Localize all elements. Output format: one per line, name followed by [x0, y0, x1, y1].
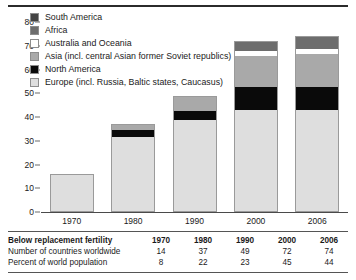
- legend-swatch-australia-oceania: [30, 39, 39, 48]
- below-replacement-fertility-table: Below replacement fertility1970198019902…: [8, 236, 348, 269]
- legend-item: South America: [30, 11, 290, 24]
- table-cell: 49: [224, 247, 266, 256]
- legend-swatch-africa: [30, 26, 39, 35]
- y-axis-tick-mark: [35, 188, 40, 189]
- chart-legend: South AmericaAfricaAustralia and Oceania…: [30, 11, 290, 89]
- legend-item: Australia and Oceania: [30, 37, 290, 50]
- y-axis-tick-label: 40: [25, 112, 34, 122]
- legend-item-label: Africa: [45, 24, 68, 37]
- y-axis: 80706050403020100: [0, 10, 34, 215]
- y-axis-tick-label: 10: [25, 183, 34, 193]
- table-row-label: Percent of world population: [8, 258, 140, 267]
- table-row: Percent of world population822234544: [8, 258, 348, 269]
- y-axis-tick-mark: [35, 164, 40, 165]
- table-row: Number of countries worldwide1437497274: [8, 247, 348, 258]
- x-axis-label-1970: 1970: [42, 216, 102, 226]
- legend-item-label: South America: [45, 11, 102, 24]
- table-cell: 14: [140, 247, 182, 256]
- bar-segment: [174, 97, 216, 111]
- bar-1980: [111, 124, 155, 212]
- table-cell: 44: [308, 258, 350, 267]
- bar-segment: [296, 54, 338, 87]
- legend-swatch-south-america: [30, 13, 39, 22]
- legend-item-label: Australia and Oceania: [45, 37, 132, 50]
- table-cell: 37: [182, 247, 224, 256]
- legend-item-label: Europe (incl. Russia, Baltic states, Cau…: [45, 76, 223, 89]
- table-top-divider: [8, 231, 348, 232]
- x-axis-baseline: [41, 212, 348, 213]
- bar-segment: [235, 87, 277, 110]
- legend-item: Europe (incl. Russia, Baltic states, Cau…: [30, 76, 290, 89]
- bar-2006: [295, 36, 339, 212]
- legend-item: Asia (incl. central Asian former Soviet …: [30, 50, 290, 63]
- y-axis-tick-mark: [35, 140, 40, 141]
- legend-swatch-asia: [30, 52, 39, 61]
- bar-segment: [296, 87, 338, 110]
- table-cell: 45: [266, 258, 308, 267]
- y-axis-tick-label: 20: [25, 160, 34, 170]
- bar-segment: [112, 137, 154, 211]
- x-axis-label-2006: 2006: [287, 216, 347, 226]
- table-cell: 72: [266, 247, 308, 256]
- y-axis-tick-mark: [35, 117, 40, 118]
- y-axis-tick-label: 0: [29, 207, 34, 217]
- bar-1990: [173, 96, 217, 212]
- y-axis-tick-mark: [35, 93, 40, 94]
- y-axis-tick-label: 50: [25, 88, 34, 98]
- bar-segment: [112, 130, 154, 137]
- x-axis-label-2000: 2000: [226, 216, 286, 226]
- top-divider: [8, 5, 348, 7]
- table-row-label: Number of countries worldwide: [8, 247, 140, 256]
- legend-item: Africa: [30, 24, 290, 37]
- table-column-header: 1980: [182, 236, 224, 245]
- table-column-header: 1990: [224, 236, 266, 245]
- bottom-divider: [8, 272, 348, 273]
- table-row-label: Below replacement fertility: [8, 236, 140, 245]
- x-axis-labels: 19701980199020002006: [41, 216, 348, 232]
- bar-segment: [296, 110, 338, 211]
- bar-segment: [296, 37, 338, 49]
- table-cell: 22: [182, 258, 224, 267]
- legend-item-label: Asia (incl. central Asian former Soviet …: [45, 50, 231, 63]
- bar-segment: [174, 120, 216, 211]
- y-axis-tick-mark: [35, 212, 40, 213]
- x-axis-label-1990: 1990: [165, 216, 225, 226]
- legend-swatch-europe: [30, 78, 39, 87]
- bar-segment: [174, 111, 216, 120]
- legend-item-label: North America: [45, 63, 101, 76]
- table-column-header: 1970: [140, 236, 182, 245]
- legend-item: North America: [30, 63, 290, 76]
- table-row: Below replacement fertility1970198019902…: [8, 236, 348, 247]
- bar-segment: [235, 110, 277, 211]
- bar-1970: [50, 174, 94, 212]
- y-axis-tick-label: 30: [25, 136, 34, 146]
- table-cell: 74: [308, 247, 350, 256]
- legend-swatch-north-america: [30, 65, 39, 74]
- table-column-header: 2000: [266, 236, 308, 245]
- table-cell: 23: [224, 258, 266, 267]
- bar-segment: [51, 175, 93, 211]
- x-axis-label-1980: 1980: [103, 216, 163, 226]
- table-column-header: 2006: [308, 236, 350, 245]
- table-cell: 8: [140, 258, 182, 267]
